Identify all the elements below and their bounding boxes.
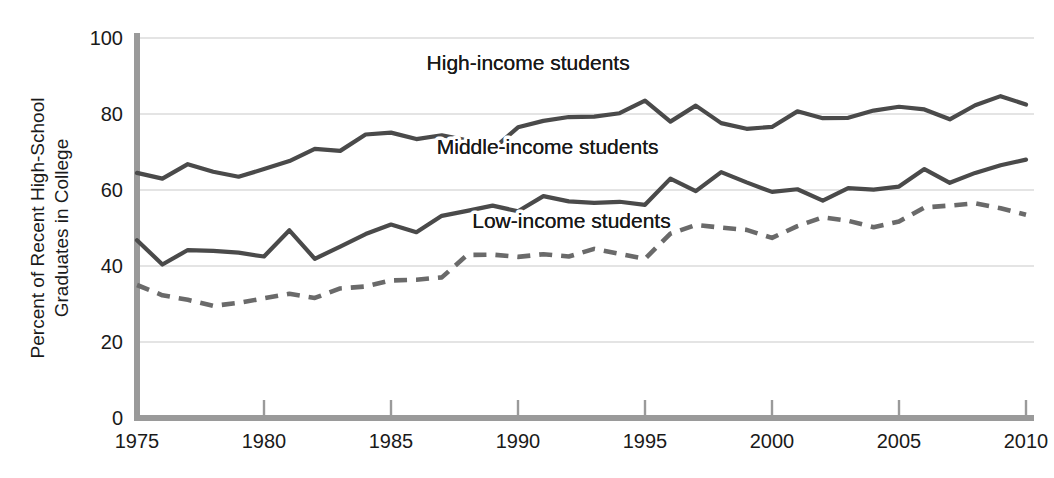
x-tick-label-2000: 2000 bbox=[750, 430, 795, 452]
y-tick-label-80: 80 bbox=[101, 103, 123, 125]
y-axis-tick-labels: 020406080100 bbox=[90, 27, 123, 429]
x-axis-ticks bbox=[137, 400, 1026, 415]
y-axis-title-line-1: Percent of Recent High-School bbox=[27, 98, 48, 359]
series-label-low-income-students: Low-income students bbox=[472, 209, 670, 232]
chart-figure: 020406080100 197519801985199019952000200… bbox=[0, 0, 1054, 478]
series-label-middle-income-students: Middle-income students bbox=[437, 135, 659, 158]
y-tick-label-0: 0 bbox=[112, 407, 123, 429]
x-tick-label-1995: 1995 bbox=[623, 430, 668, 452]
y-tick-label-100: 100 bbox=[90, 27, 123, 49]
x-tick-label-1990: 1990 bbox=[496, 430, 541, 452]
x-tick-label-2010: 2010 bbox=[1004, 430, 1049, 452]
y-axis-title: Percent of Recent High-School Graduates … bbox=[27, 98, 72, 359]
x-tick-label-1975: 1975 bbox=[115, 430, 160, 452]
y-tick-label-40: 40 bbox=[101, 255, 123, 277]
line-chart: 020406080100 197519801985199019952000200… bbox=[0, 0, 1054, 478]
series-label-high-income-students: High-income students bbox=[427, 51, 630, 74]
x-axis-tick-labels: 19751980198519901995200020052010 bbox=[115, 430, 1049, 452]
y-axis-title-line-2: Graduates in College bbox=[51, 139, 72, 318]
x-tick-label-1985: 1985 bbox=[369, 430, 414, 452]
series-lines bbox=[137, 96, 1026, 306]
x-tick-label-1980: 1980 bbox=[242, 430, 287, 452]
y-tick-label-60: 60 bbox=[101, 179, 123, 201]
x-tick-label-2005: 2005 bbox=[877, 430, 922, 452]
y-tick-label-20: 20 bbox=[101, 331, 123, 353]
